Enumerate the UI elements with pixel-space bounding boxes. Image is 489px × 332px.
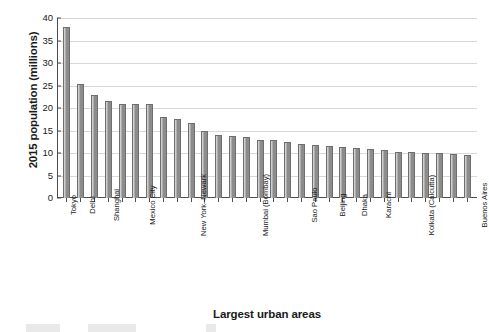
y-axis-tick-label: 5 xyxy=(48,171,57,181)
x-axis-tick-mark xyxy=(246,198,247,202)
x-axis-tick-label: Karachi xyxy=(385,192,393,218)
x-axis-tick-label: Mumbai (Bombay) xyxy=(262,174,270,236)
bar xyxy=(105,101,112,198)
bar-slot xyxy=(364,18,378,198)
x-axis-tick-label: Delhi xyxy=(89,196,97,213)
x-axis-label-slot: Sao Paulo xyxy=(293,203,328,303)
bar-slot xyxy=(350,18,364,198)
x-axis-tick-mark xyxy=(122,198,123,202)
y-axis-tick-mark xyxy=(57,18,61,19)
x-axis-tick-mark xyxy=(273,198,274,202)
y-axis-tick-label: 35 xyxy=(42,36,57,46)
bar-slot xyxy=(239,18,253,198)
bar-slot xyxy=(143,18,157,198)
x-axis-tick-mark xyxy=(232,198,233,202)
x-axis-tick-mark xyxy=(370,198,371,202)
bar xyxy=(450,154,457,198)
bar xyxy=(132,104,139,199)
x-axis-tick-mark xyxy=(439,198,440,202)
x-axis-tick-label: Buenos Aires xyxy=(481,183,489,228)
bar-slot xyxy=(336,18,350,198)
bar-slot xyxy=(253,18,267,198)
x-axis-tick-mark xyxy=(453,198,454,202)
x-axis-tick-mark xyxy=(135,198,136,202)
bar-slot xyxy=(74,18,88,198)
x-axis-tick-mark xyxy=(163,198,164,202)
bar-slot xyxy=(433,18,447,198)
bar xyxy=(63,27,70,198)
x-axis-tick-label: Sao Paulo xyxy=(310,187,318,222)
x-axis-tick-mark xyxy=(66,198,67,202)
bar-slot xyxy=(157,18,171,198)
x-axis-label-slot: Tokyo xyxy=(60,203,80,303)
x-axis-tick-mark xyxy=(108,198,109,202)
bar xyxy=(77,84,84,198)
plot-area: 0510152025303540 xyxy=(57,18,477,198)
x-axis-label-slot: New York–Newark xyxy=(169,203,231,303)
x-axis-tick-mark xyxy=(467,198,468,202)
bar-series xyxy=(57,18,477,198)
y-axis-tick-label: 10 xyxy=(42,148,57,158)
x-axis-tick-label: Shanghai xyxy=(113,189,121,221)
x-axis-tick-mark xyxy=(287,198,288,202)
x-axis-tick-mark xyxy=(301,198,302,202)
bar-slot xyxy=(446,18,460,198)
x-axis-tick-mark xyxy=(80,198,81,202)
bar-slot xyxy=(60,18,74,198)
bar-slot xyxy=(460,18,474,198)
bar xyxy=(408,152,415,198)
x-axis-label-slot: Mexico City xyxy=(129,203,168,303)
bar xyxy=(395,152,402,198)
bar-slot xyxy=(170,18,184,198)
bar-slot xyxy=(391,18,405,198)
y-axis-tick-label: 25 xyxy=(42,81,57,91)
bar-slot xyxy=(88,18,102,198)
x-axis-label-slot: Shanghai xyxy=(97,203,129,303)
x-axis-tick-mark xyxy=(411,198,412,202)
x-axis-label-slot: Delhi xyxy=(80,203,97,303)
y-axis-tick-mark xyxy=(57,63,61,64)
bar-slot xyxy=(101,18,115,198)
x-axis-label-slot: Buenos Aires xyxy=(459,203,489,303)
bar-slot xyxy=(377,18,391,198)
x-axis-label-slot: Dhaka xyxy=(350,203,372,303)
bar xyxy=(367,149,374,199)
bar xyxy=(464,155,471,198)
bar xyxy=(243,137,250,198)
y-axis-tick-label: 0 xyxy=(48,193,57,203)
x-axis-tick-mark xyxy=(356,198,357,202)
x-axis-tick-mark xyxy=(425,198,426,202)
bar xyxy=(188,123,195,198)
bar-slot xyxy=(212,18,226,198)
x-axis-title: Largest urban areas xyxy=(57,308,477,320)
bar xyxy=(174,119,181,198)
bar xyxy=(229,136,236,198)
bar-slot xyxy=(184,18,198,198)
bar xyxy=(146,104,153,198)
y-axis-tick-label: 15 xyxy=(42,126,57,136)
y-axis-tick-label: 20 xyxy=(42,103,57,113)
bar-slot xyxy=(115,18,129,198)
x-axis-tick-mark xyxy=(218,198,219,202)
x-axis-tick-label: Mexico City xyxy=(149,185,157,224)
y-axis-tick-mark xyxy=(57,153,61,154)
x-axis-tick-label: Dhaka xyxy=(361,194,369,216)
y-axis-tick-mark xyxy=(57,130,61,131)
bar-slot xyxy=(308,18,322,198)
x-axis-label-slot: Karachi xyxy=(372,203,398,303)
x-axis-tick-mark xyxy=(398,198,399,202)
x-axis-tick-label: Tokyo xyxy=(70,195,78,215)
x-axis-tick-labels: TokyoDelhiShanghaiMexico CityNew York–Ne… xyxy=(57,203,477,303)
y-axis-tick-mark xyxy=(57,85,61,86)
y-axis-tick-label: 30 xyxy=(42,58,57,68)
bar xyxy=(284,142,291,198)
bar xyxy=(353,148,360,198)
x-axis-tick-mark xyxy=(177,198,178,202)
bar-chart-figure: 2015 population (millions) 0510152025303… xyxy=(0,0,489,332)
x-axis-label-slot: Beijing xyxy=(328,203,351,303)
bar-slot xyxy=(322,18,336,198)
y-axis-tick-mark xyxy=(57,40,61,41)
bar xyxy=(326,146,333,198)
bar-slot xyxy=(419,18,433,198)
bar xyxy=(215,135,222,198)
